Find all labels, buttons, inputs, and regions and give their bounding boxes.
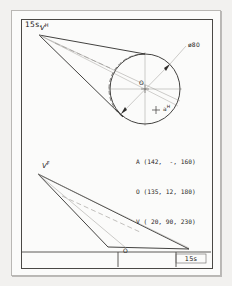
coordinate-line-o: O (135, 12, 180) <box>136 187 196 197</box>
top-view-apex-superscript: H <box>45 22 49 28</box>
front-view-base-center-label: O <box>123 248 128 254</box>
diameter-arrow-lower <box>121 107 127 114</box>
apex-construction-ray-2 <box>39 35 178 106</box>
diameter-arrow-upper <box>164 64 170 71</box>
front-view-apex-label: VF <box>42 163 50 170</box>
diameter-leader-line <box>170 46 186 64</box>
top-view-point-a-label: aH <box>163 106 170 112</box>
front-cone-axis-dashed <box>62 196 140 232</box>
point-a-superscript: H <box>167 104 170 109</box>
diameter-dimension-label: ø80 <box>188 42 200 48</box>
top-view-center-label: O <box>139 80 144 86</box>
tangent-line-lower <box>39 35 123 117</box>
coordinate-line-v: V ( 20, 90, 230) <box>136 217 196 227</box>
drawing-sheet: 15s. VH O aH ø80 A (142, -, 160) O (135,… <box>0 0 232 286</box>
front-view-apex-superscript: F <box>47 160 50 166</box>
top-view-group <box>39 35 186 126</box>
top-view-apex-label: VH <box>40 25 49 32</box>
coordinate-table: A (142, -, 160) O (135, 12, 180) V ( 20,… <box>136 137 196 247</box>
front-base-line <box>108 247 189 249</box>
title-block-sheet-number: 15s <box>176 255 206 263</box>
front-slant-edge-lower <box>38 174 108 247</box>
coordinate-line-a: A (142, -, 160) <box>136 157 196 167</box>
